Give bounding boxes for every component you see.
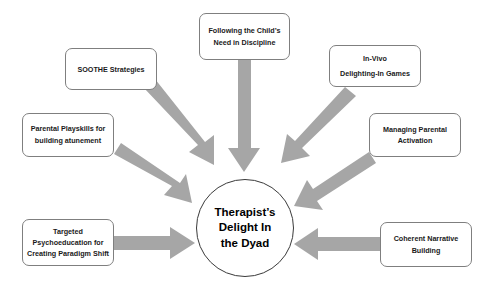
node-managing-parental-activation[interactable]: Managing Parental Activation xyxy=(369,113,461,157)
node-label-line: Building xyxy=(412,245,441,257)
arrow-managing-parental-activation xyxy=(294,152,376,210)
node-in-vivo-delighting-in-games[interactable]: In-Vivo Delighting-In Games xyxy=(329,45,421,87)
node-label-line: Managing Parental xyxy=(383,124,447,135)
arrow-following-the-childs-need-in-discipline xyxy=(228,60,260,172)
node-label-line: Delighting-In Games xyxy=(340,66,410,81)
node-targeted-psychoeducation-for-creating-paradigm-shift[interactable]: Targeted Psychoeducation for Creating Pa… xyxy=(22,219,114,266)
node-parental-playskills-for-building-atunement[interactable]: Parental Playskills for building atuneme… xyxy=(22,113,114,157)
hub-therapists-delight-in-the-dyad[interactable]: Therapist’s Delight In the Dyad xyxy=(196,179,294,277)
arrow-coherent-narrative-building xyxy=(294,228,380,260)
arrow-targeted-psychoeducation-for-creating-paradigm-shift xyxy=(114,227,195,259)
node-label-line: Following the Child’s xyxy=(208,25,280,37)
hub-label-line: Therapist’s xyxy=(215,205,276,221)
arrow-parental-playskills-for-building-atunement xyxy=(114,143,192,203)
node-label-line: Psychoeducation for xyxy=(32,237,103,248)
node-label-line: In-Vivo xyxy=(363,51,387,66)
node-label-line: Activation xyxy=(398,135,433,146)
node-label-line: building atunement xyxy=(35,135,101,147)
node-label-line: Coherent Narrative xyxy=(394,233,459,245)
node-label-line: Parental Playskills for xyxy=(31,123,106,135)
node-soothe-strategies[interactable]: SOOTHE Strategies xyxy=(65,48,157,90)
node-label-line: Targeted xyxy=(53,226,83,237)
node-label-line: SOOTHE Strategies xyxy=(77,65,144,74)
node-coherent-narrative-building[interactable]: Coherent Narrative Building xyxy=(380,222,472,267)
node-label-line: Creating Paradigm Shift xyxy=(27,248,109,259)
hub-label-line: the Dyad xyxy=(221,236,270,252)
node-label-line: Need in Discipline xyxy=(214,37,276,49)
node-following-the-childs-need-in-discipline[interactable]: Following the Child’s Need in Discipline xyxy=(199,13,290,60)
diagram-canvas: SOOTHE Strategies Following the Child’s … xyxy=(0,0,487,292)
arrow-soothe-strategies xyxy=(144,79,214,165)
arrow-in-vivo-delighting-in-games xyxy=(281,87,356,163)
hub-label-line: Delight In xyxy=(219,220,271,236)
